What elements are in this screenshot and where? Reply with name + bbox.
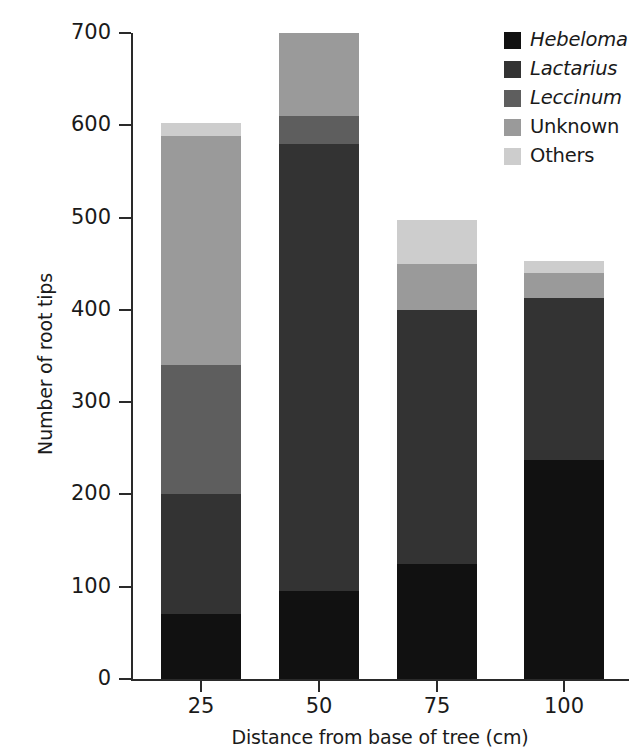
y-axis-tick (119, 678, 131, 680)
y-axis-tick (119, 309, 131, 311)
y-axis-title: Number of root tips (34, 214, 56, 514)
y-axis-tick (119, 32, 131, 34)
bar-segment-hebeloma-50cm (279, 591, 359, 679)
legend-label-unknown: Unknown (530, 117, 619, 137)
bar-segment-unknown-75cm (397, 264, 477, 310)
x-axis-tick-label: 50 (259, 694, 379, 718)
bar-segment-lactarius-50cm (279, 144, 359, 592)
bar-segment-others-25cm (161, 123, 241, 137)
bar-segment-leccinum-50cm (279, 116, 359, 144)
legend-swatch-hebeloma (504, 32, 521, 49)
y-axis-tick (119, 401, 131, 403)
x-axis-tick-label: 75 (377, 694, 497, 718)
bar-50cm (279, 33, 359, 679)
legend-label-hebeloma: Hebeloma (530, 30, 628, 50)
x-axis-tick (318, 681, 320, 692)
bar-segment-hebeloma-75cm (397, 564, 477, 679)
x-axis-tick (200, 681, 202, 692)
legend-item-unknown[interactable]: Unknown (504, 115, 619, 139)
x-axis-tick-label: 25 (141, 694, 261, 718)
legend-item-leccinum[interactable]: Leccinum (504, 86, 622, 110)
legend-swatch-unknown (504, 119, 521, 136)
bar-segment-hebeloma-100cm (524, 460, 604, 679)
y-axis-line (131, 33, 133, 680)
legend-item-others[interactable]: Others (504, 144, 594, 168)
bar-segment-unknown-100cm (524, 273, 604, 298)
y-axis-tick-label: 100 (41, 576, 111, 597)
x-axis-tick (563, 681, 565, 692)
y-axis-tick-label: 300 (41, 391, 111, 412)
legend-swatch-lactarius (504, 61, 521, 78)
bar-segment-leccinum-25cm (161, 365, 241, 494)
stacked-bar-chart: Number of root tips 01002003004005006007… (0, 0, 643, 755)
bar-25cm (161, 33, 241, 679)
y-axis-tick-label: 400 (41, 299, 111, 320)
legend-label-others: Others (530, 146, 594, 166)
y-axis-tick (119, 586, 131, 588)
legend-item-lactarius[interactable]: Lactarius (504, 57, 617, 81)
legend-item-hebeloma[interactable]: Hebeloma (504, 28, 628, 52)
bar-segment-others-75cm (397, 220, 477, 263)
legend-label-lactarius: Lactarius (530, 59, 617, 79)
x-axis-tick (436, 681, 438, 692)
x-axis-tick-label: 100 (504, 694, 624, 718)
bar-segment-hebeloma-25cm (161, 614, 241, 679)
y-axis-tick (119, 217, 131, 219)
y-axis-tick-label: 600 (41, 114, 111, 135)
y-axis-tick-label: 700 (41, 22, 111, 43)
x-axis-line (131, 679, 629, 681)
legend-swatch-others (504, 148, 521, 165)
bar-segment-lactarius-100cm (524, 298, 604, 460)
y-axis-tick-label: 500 (41, 207, 111, 228)
legend-label-leccinum: Leccinum (530, 88, 622, 108)
x-axis-title: Distance from base of tree (cm) (131, 726, 629, 748)
y-axis-tick (119, 493, 131, 495)
legend-swatch-leccinum (504, 90, 521, 107)
bar-segment-lactarius-75cm (397, 310, 477, 564)
bar-segment-unknown-25cm (161, 136, 241, 365)
bar-segment-unknown-50cm (279, 33, 359, 116)
bar-75cm (397, 33, 477, 679)
y-axis-tick-label: 0 (41, 668, 111, 689)
bar-segment-lactarius-25cm (161, 494, 241, 614)
y-axis-tick (119, 124, 131, 126)
bar-segment-others-100cm (524, 261, 604, 273)
y-axis-tick-label: 200 (41, 483, 111, 504)
